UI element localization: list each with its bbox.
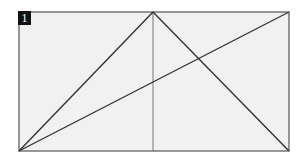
figure-label: 1 [18,11,31,25]
geometry-diagram [0,0,306,162]
